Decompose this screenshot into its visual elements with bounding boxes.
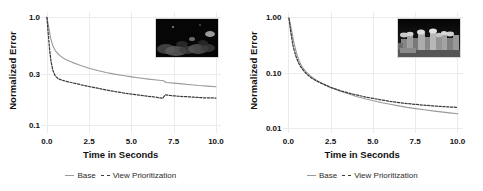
grayscale-rocky-village-thumbnail — [397, 18, 461, 58]
x-tick-label: 0.0 — [41, 137, 52, 146]
chart-panel-left: Normalized Error1.00.30.10.02.55.07.510.… — [0, 0, 242, 191]
x-tick-label: 5.0 — [126, 137, 137, 146]
legend-dashed-line-icon — [101, 175, 110, 176]
x-tick-label: 2.5 — [325, 137, 336, 146]
x-tick-label: 5.0 — [367, 137, 378, 146]
legend-dashed-line-icon — [342, 175, 351, 176]
legend-label: View Prioritization — [354, 171, 417, 180]
legend-item-dashed: View Prioritization — [342, 171, 417, 180]
legend-item-solid: Base — [65, 171, 95, 180]
x-axis-title: Time in Seconds — [242, 149, 483, 160]
legend-item-solid: Base — [307, 171, 337, 180]
x-axis-title: Time in Seconds — [0, 149, 242, 160]
legend: BaseView Prioritization — [0, 171, 242, 180]
x-tick-label: 7.5 — [168, 137, 179, 146]
legend-solid-line-icon — [65, 175, 74, 176]
legend-solid-line-icon — [307, 175, 316, 176]
legend-label: Base — [319, 171, 337, 180]
x-tick-label: 2.5 — [84, 137, 95, 146]
legend-label: Base — [77, 171, 95, 180]
x-tick-label: 10.0 — [450, 137, 466, 146]
x-tick-label: 7.5 — [410, 137, 421, 146]
x-tick-label: 0.0 — [283, 137, 294, 146]
x-tick-label: 10.0 — [208, 137, 224, 146]
dark-night-scene-thumbnail — [155, 18, 219, 58]
legend-label: View Prioritization — [113, 171, 176, 180]
legend: BaseView Prioritization — [242, 171, 483, 180]
figure-two-panel-convergence-plots: Normalized Error1.00.30.10.02.55.07.510.… — [0, 0, 483, 191]
legend-item-dashed: View Prioritization — [101, 171, 176, 180]
chart-panel-right: Normalized Error1.000.100.010.02.55.07.5… — [242, 0, 483, 191]
